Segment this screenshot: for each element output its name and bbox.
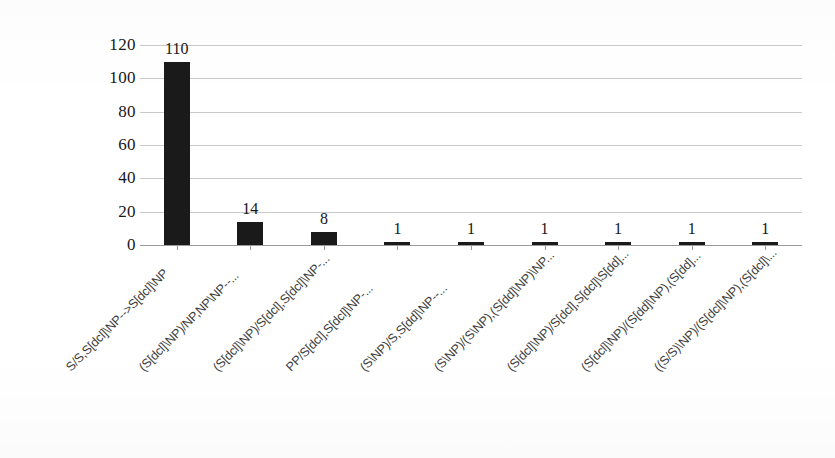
bar	[237, 222, 263, 245]
x-tick-mark	[250, 246, 251, 250]
x-tick-mark	[177, 246, 178, 250]
y-tick-label: 40	[118, 168, 136, 188]
bar-value-label: 1	[467, 220, 475, 238]
gridline	[140, 145, 802, 146]
gridline	[140, 45, 802, 46]
bar-chart: 020406080100120 110148111111 S/S,S[dcl]\…	[0, 0, 835, 458]
gridline	[140, 78, 802, 79]
bar-value-label: 110	[165, 40, 188, 58]
y-tick-label: 80	[118, 102, 136, 122]
y-tick-label: 20	[118, 202, 136, 222]
bar-value-label: 1	[541, 220, 549, 238]
gridline	[140, 212, 802, 213]
bar-value-label: 1	[614, 220, 622, 238]
bar-value-label: 8	[320, 210, 328, 228]
y-axis: 020406080100120	[96, 45, 136, 245]
x-tick-mark	[397, 246, 398, 250]
x-axis-category-label: (S\NP)/(S\NP),(S[dd]\NP)\NP...	[431, 248, 557, 374]
gridline	[140, 112, 802, 113]
bar-value-label: 1	[688, 220, 696, 238]
bar	[311, 232, 337, 245]
x-axis-category-label: ((S/S)\NP)/(S[dcl]\NP),(S[dcl]\...	[651, 246, 779, 374]
y-tick-label: 60	[118, 135, 136, 155]
bar	[752, 242, 778, 245]
plot-area: 110148111111	[140, 45, 802, 245]
bar	[532, 242, 558, 245]
x-axis-category-label: (S[dcl]\NP)/S[dcl],S[dcl]\S[dd]...	[504, 247, 631, 374]
y-tick-label: 120	[109, 35, 136, 55]
bar	[458, 242, 484, 245]
bar	[679, 242, 705, 245]
bar-value-label: 14	[242, 200, 258, 218]
y-tick-label: 0	[127, 235, 136, 255]
x-tick-mark	[471, 246, 472, 250]
bar	[164, 62, 190, 245]
y-tick-label: 100	[109, 68, 136, 88]
bar-value-label: 1	[393, 220, 401, 238]
bar	[605, 242, 631, 245]
bar	[384, 242, 410, 245]
x-tick-mark	[324, 246, 325, 250]
x-axis-category-label: (S[dcl]\NP)/(S[dd]\NP),(S[dd]...	[578, 249, 703, 374]
gridline	[140, 178, 802, 179]
bar-value-label: 1	[761, 220, 769, 238]
